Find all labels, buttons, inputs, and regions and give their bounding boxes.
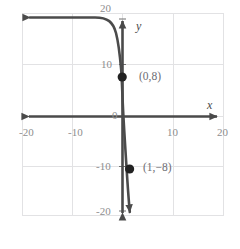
ytick-label-20: 20 <box>100 3 111 14</box>
point-label-1-neg8: (1,−8) <box>143 162 172 174</box>
xtick-label-10: 10 <box>167 127 178 138</box>
ytick-label-neg10: -10 <box>96 161 111 172</box>
y-axis-label: y <box>136 20 141 32</box>
graph-figure: 20 10 -10 -20 -20 -10 0 10 20 y x (0,8) … <box>0 0 240 249</box>
xtick-label-20: 20 <box>217 127 228 138</box>
point-label-0-8: (0,8) <box>139 71 161 83</box>
point-marker-0-8 <box>118 72 127 81</box>
xtick-label-neg10: -10 <box>68 127 83 138</box>
ytick-label-10: 10 <box>101 59 112 70</box>
ytick-label-neg20: -20 <box>96 206 111 217</box>
point-marker-1-neg8 <box>125 164 134 173</box>
origin-label: 0 <box>112 110 118 121</box>
x-axis-label: x <box>207 99 212 111</box>
coordinate-plane-svg <box>0 0 240 249</box>
xtick-label-neg20: -20 <box>19 127 34 138</box>
